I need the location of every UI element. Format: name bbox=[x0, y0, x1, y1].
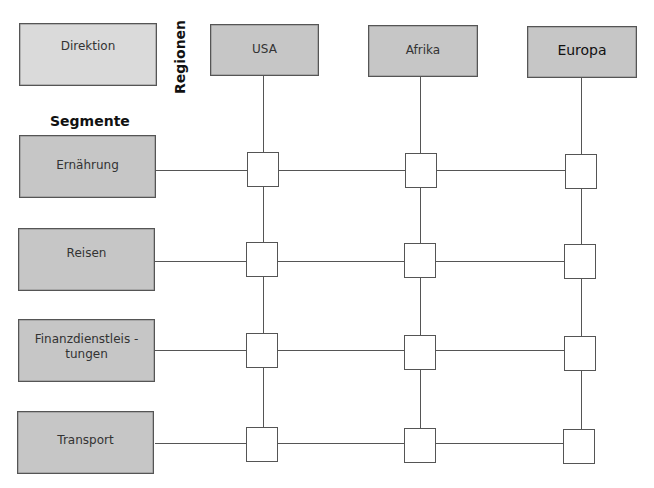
node-finanz-afrika bbox=[404, 335, 436, 370]
node-transport-usa bbox=[246, 427, 278, 462]
node-ernaehrung-afrika bbox=[405, 153, 437, 188]
node-ernaehrung-europa bbox=[565, 154, 597, 189]
segment-transport-box: Transport bbox=[17, 411, 154, 474]
segment-finanz-label-line2: tungen bbox=[65, 347, 108, 362]
segment-finanz-label-line1: Finanzdienstleis - bbox=[35, 332, 139, 347]
region-usa-label: USA bbox=[252, 42, 277, 57]
node-transport-afrika bbox=[404, 428, 436, 463]
segmente-axis-label: Segmente bbox=[50, 113, 130, 129]
node-transport-europa bbox=[563, 429, 595, 464]
region-usa-box: USA bbox=[210, 24, 319, 76]
connector-finanz bbox=[155, 350, 585, 351]
segment-reisen-box: Reisen bbox=[18, 228, 155, 291]
regionen-axis-label: Regionen bbox=[172, 19, 190, 95]
segment-transport-label: Transport bbox=[57, 433, 113, 448]
node-reisen-usa bbox=[246, 242, 278, 277]
connector-ernaehrung bbox=[155, 170, 585, 171]
segment-reisen-label: Reisen bbox=[67, 246, 107, 261]
region-afrika-box: Afrika bbox=[368, 25, 478, 77]
region-afrika-label: Afrika bbox=[406, 43, 440, 58]
region-europa-label: Europa bbox=[557, 43, 606, 58]
node-ernaehrung-usa bbox=[247, 152, 279, 187]
segment-finanzdienstleistungen-box: Finanzdienstleis - tungen bbox=[18, 319, 155, 382]
segment-ernaehrung-box: Ernährung bbox=[19, 135, 156, 198]
node-reisen-afrika bbox=[404, 243, 436, 278]
node-finanz-usa bbox=[246, 333, 278, 368]
direktion-label: Direktion bbox=[61, 39, 116, 54]
node-finanz-europa bbox=[564, 336, 596, 371]
connector-transport bbox=[155, 443, 585, 444]
node-reisen-europa bbox=[564, 244, 596, 279]
connector-reisen bbox=[155, 261, 585, 262]
region-europa-box: Europa bbox=[527, 26, 637, 78]
direktion-box: Direktion bbox=[19, 23, 157, 86]
segment-ernaehrung-label: Ernährung bbox=[56, 158, 119, 173]
